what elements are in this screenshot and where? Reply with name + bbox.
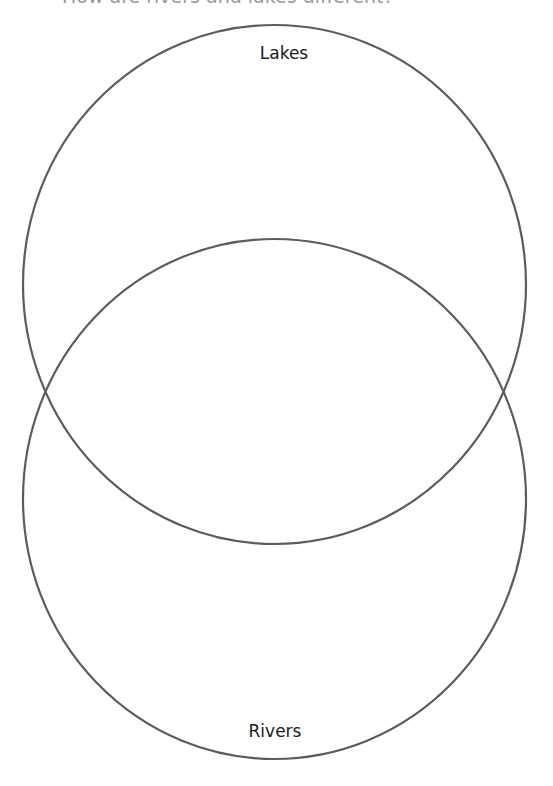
venn-label-lakes: Lakes — [260, 44, 308, 62]
worksheet-page: How are rivers and lakes different? Lake… — [0, 0, 553, 786]
venn-label-rivers: Rivers — [249, 722, 302, 740]
venn-circle-lakes — [23, 25, 526, 544]
venn-circle-rivers — [23, 239, 526, 759]
venn-diagram — [0, 0, 553, 786]
